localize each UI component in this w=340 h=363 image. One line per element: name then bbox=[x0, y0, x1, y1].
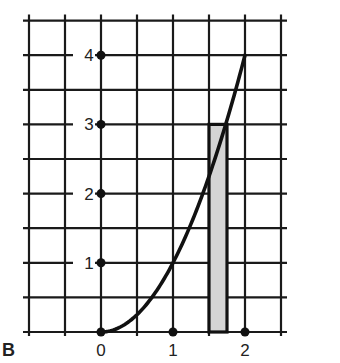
shaded-bar bbox=[209, 124, 227, 332]
x-tick-label: 0 bbox=[96, 341, 105, 360]
y-tick-label: 4 bbox=[84, 46, 93, 65]
x-tick-label: 2 bbox=[240, 341, 249, 360]
y-tick-dot bbox=[97, 120, 106, 129]
chart: 1234012 B bbox=[0, 0, 340, 363]
panel-label: B bbox=[2, 340, 15, 360]
y-tick-dot bbox=[97, 51, 106, 60]
origin-dot bbox=[97, 328, 106, 337]
y-tick-dot bbox=[97, 258, 106, 267]
y-tick-label: 1 bbox=[84, 254, 93, 273]
x-tick-dot bbox=[241, 328, 250, 337]
shaded-rectangle bbox=[209, 124, 227, 332]
grid bbox=[23, 15, 287, 336]
x-tick-dot bbox=[169, 328, 178, 337]
x-tick-label: 1 bbox=[168, 341, 177, 360]
y-tick-label: 3 bbox=[84, 115, 93, 134]
y-tick-label: 2 bbox=[84, 185, 93, 204]
y-tick-dot bbox=[97, 189, 106, 198]
